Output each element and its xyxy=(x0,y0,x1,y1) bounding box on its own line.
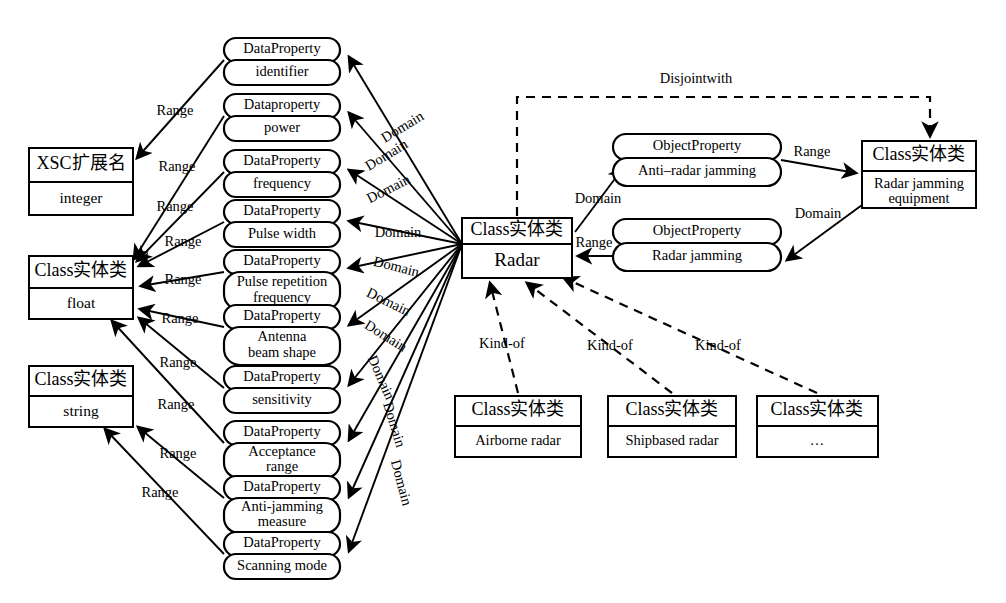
edge-label-range: Range xyxy=(793,143,830,159)
node-label-line2: equipment xyxy=(888,190,949,206)
node-label: integer xyxy=(59,189,103,206)
node-label: float xyxy=(67,294,96,311)
data-property-node-power[interactable]: Dataproperty power xyxy=(224,94,340,141)
node-label: Anti–radar jamming xyxy=(638,162,756,178)
node-label: sensitivity xyxy=(252,391,312,407)
edge-label-domain: Domain xyxy=(364,170,414,206)
edge-label-range: Range xyxy=(157,396,194,412)
subclass-nodes: Class实体类 Airborne radar Class实体类 Shipbas… xyxy=(455,396,878,457)
node-header: DataProperty xyxy=(243,40,321,56)
node-header: ObjectProperty xyxy=(653,137,742,153)
node-label-line2: measure xyxy=(258,513,306,529)
edge-label-kind-of: Kind-of xyxy=(587,337,633,353)
kind-of-edges xyxy=(490,278,817,393)
edge-label-domain: Domain xyxy=(362,316,411,355)
edge-label-range: Range xyxy=(159,445,196,461)
node-header: DataProperty xyxy=(243,534,321,550)
node-label-line1: Radar jamming xyxy=(874,175,964,191)
class-node-other-radar[interactable]: Class实体类 … xyxy=(757,396,878,457)
node-label: Radar jamming xyxy=(652,247,742,263)
node-header: DataProperty xyxy=(243,152,321,168)
node-label: Pulse width xyxy=(248,225,317,241)
node-label-line1: Antenna xyxy=(257,328,307,344)
edge-label-domain: Domain xyxy=(388,458,416,508)
kind-of-edge-other xyxy=(564,278,817,393)
edge-label-domain: Domain xyxy=(795,205,842,221)
node-label-line1: Pulse repetition xyxy=(237,273,328,289)
node-label: frequency xyxy=(253,175,312,191)
range-edge-anti-radar-jamming xyxy=(781,160,856,173)
data-property-node-pulse-width[interactable]: DataProperty Pulse width xyxy=(224,200,340,247)
node-header: Class实体类 xyxy=(471,399,564,419)
node-header: Class实体类 xyxy=(625,399,718,419)
edge-label-range: Range xyxy=(159,354,196,370)
node-label-line2: frequency xyxy=(253,289,312,305)
edge-label-range: Range xyxy=(164,233,201,249)
class-node-airborne-radar[interactable]: Class实体类 Airborne radar xyxy=(455,396,581,457)
edge-label-range: Range xyxy=(156,102,193,118)
node-header: DataProperty xyxy=(243,423,321,439)
node-label: Scanning mode xyxy=(237,557,327,573)
edge-label-domain: Domain xyxy=(380,400,409,450)
datatype-nodes: XSC扩展名 integer Class实体类 float Class实体类 s… xyxy=(29,148,133,427)
node-label: identifier xyxy=(255,63,308,79)
data-property-node-scanning-mode[interactable]: DataProperty Scanning mode xyxy=(224,532,340,579)
edge-label-kind-of: Kind-of xyxy=(695,337,741,353)
node-header: DataProperty xyxy=(243,368,321,384)
class-node-radar-jamming-equipment[interactable]: Class实体类 Radar jamming equipment xyxy=(862,141,976,208)
node-header: ObjectProperty xyxy=(653,222,742,238)
node-label: power xyxy=(264,119,300,135)
diagram-canvas: Range Range Range Range Range Range Rang… xyxy=(0,0,1006,603)
node-label-line2: beam shape xyxy=(248,344,316,360)
node-header: Dataproperty xyxy=(244,96,321,112)
node-header: Class实体类 xyxy=(34,369,127,389)
datatype-node-integer[interactable]: XSC扩展名 integer xyxy=(29,148,133,215)
edge-label-domain: Domain xyxy=(365,353,399,403)
node-header: Class实体类 xyxy=(872,144,965,164)
data-property-node-pulse-repetition-frequency[interactable]: DataProperty Pulse repetition frequency xyxy=(224,250,340,310)
edge-label-kind-of: Kind-of xyxy=(479,335,525,351)
data-property-node-frequency[interactable]: DataProperty frequency xyxy=(224,150,340,197)
node-header: DataProperty xyxy=(243,202,321,218)
data-property-nodes: DataProperty identifier Dataproperty pow… xyxy=(224,38,340,579)
object-property-node-radar-jamming[interactable]: ObjectProperty Radar jamming xyxy=(613,219,781,271)
data-property-node-antenna-beam-shape[interactable]: DataProperty Antenna beam shape xyxy=(224,305,340,365)
node-header: Class实体类 xyxy=(770,399,863,419)
node-header: Class实体类 xyxy=(34,260,127,280)
datatype-node-string[interactable]: Class实体类 string xyxy=(29,366,133,427)
datatype-node-float[interactable]: Class实体类 float xyxy=(29,256,133,319)
data-property-node-anti-jamming-measure[interactable]: DataProperty Anti-jamming measure xyxy=(224,476,340,533)
object-property-nodes: ObjectProperty Anti–radar jamming Object… xyxy=(613,134,781,271)
node-header: Class实体类 xyxy=(470,219,563,239)
node-label: string xyxy=(63,402,99,419)
edge-label-range: Range xyxy=(164,271,201,287)
edge-label-domain: Domain xyxy=(364,284,414,319)
node-label: Shipbased radar xyxy=(625,432,718,448)
class-node-shipbased-radar[interactable]: Class实体类 Shipbased radar xyxy=(608,396,736,457)
edge-label-disjoint-with: Disjointwith xyxy=(660,70,733,86)
node-label: … xyxy=(810,432,825,448)
object-property-node-anti-radar-jamming[interactable]: ObjectProperty Anti–radar jamming xyxy=(613,134,781,186)
node-header: DataProperty xyxy=(243,307,321,323)
data-property-node-acceptance-range[interactable]: DataProperty Acceptance range xyxy=(224,421,340,478)
data-property-node-sensitivity[interactable]: DataProperty sensitivity xyxy=(224,366,340,413)
edge-label-range: Range xyxy=(158,158,195,174)
node-header: DataProperty xyxy=(243,252,321,268)
edge-label-range: Range xyxy=(141,484,178,500)
range-edge-sensitivity xyxy=(139,318,224,388)
ontology-diagram: Range Range Range Range Range Range Rang… xyxy=(0,0,1006,603)
node-label-line1: Acceptance xyxy=(248,443,316,459)
node-label-line2: range xyxy=(266,458,298,474)
edge-label-domain: Domain xyxy=(375,224,422,240)
edge-label-range: Range xyxy=(156,198,193,214)
edge-label-domain: Domain xyxy=(575,190,622,206)
class-node-radar[interactable]: Class实体类 Radar xyxy=(462,218,572,278)
node-header: XSC扩展名 xyxy=(36,153,125,173)
node-header: DataProperty xyxy=(243,478,321,494)
edge-label-range: Range xyxy=(575,234,612,250)
node-label-line1: Anti-jamming xyxy=(241,498,323,514)
domain-edge-anti-jamming xyxy=(349,244,462,497)
node-label: Airborne radar xyxy=(475,432,561,448)
data-property-node-identifier[interactable]: DataProperty identifier xyxy=(224,38,340,85)
node-label: Radar xyxy=(494,249,540,270)
